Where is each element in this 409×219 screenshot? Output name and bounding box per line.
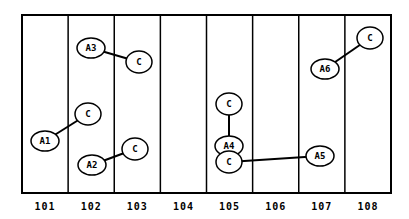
column-label: 103 [127,201,148,212]
node-c-of-a1: C [75,103,101,125]
column-label: 107 [311,201,332,212]
node-label: C [367,33,372,43]
column-label: 108 [357,201,378,212]
column-diagram: A1CA2CA3CA4CA5CA6C 101102103104105106107… [0,0,409,219]
node-label: A6 [320,64,331,74]
node-label: A3 [86,43,97,53]
node-c-of-a6: C [357,27,383,49]
node-a1: A1 [31,131,59,151]
column-label: 105 [219,201,240,212]
node-c-of-a3: C [126,51,152,73]
node-c-of-a5: C [216,151,242,173]
node-label: A1 [40,136,51,146]
node-label: C [226,157,231,167]
node-label: A2 [87,160,98,170]
node-a2: A2 [78,155,106,175]
column-label: 106 [265,201,286,212]
node-label: C [136,57,141,67]
node-label: C [85,109,90,119]
node-a3: A3 [77,38,105,58]
column-label: 102 [81,201,102,212]
node-c-of-a4: C [216,93,242,115]
node-c-of-a2: C [122,138,148,160]
node-a5: A5 [306,146,334,166]
node-label: A5 [315,151,326,161]
node-label: C [226,99,231,109]
node-label: A4 [224,141,235,151]
node-a6: A6 [311,59,339,79]
column-label: 101 [35,201,56,212]
column-label: 104 [173,201,194,212]
node-label: C [132,144,137,154]
column-labels: 101102103104105106107108 [35,201,379,212]
